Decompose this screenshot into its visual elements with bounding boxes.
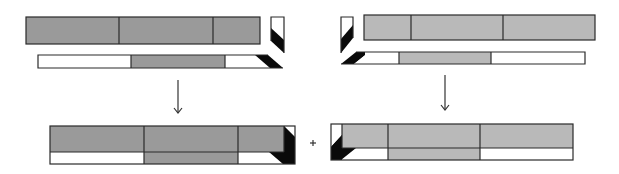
right-bottom-bar [341, 52, 585, 64]
right-down-arrow [441, 75, 449, 110]
fragment-join-diagram: + [0, 0, 619, 174]
left-vertical-end-tab [271, 17, 284, 53]
left-top-bar [26, 17, 260, 44]
left-combined-structure [50, 126, 295, 164]
left-fragment [26, 17, 284, 68]
plus-sign: + [310, 140, 316, 146]
left-down-arrow [174, 80, 182, 113]
right-combined-structure [331, 124, 573, 160]
right-vertical-end-tab [341, 17, 353, 53]
left-bottom-bar [38, 55, 283, 68]
right-top-bar [364, 15, 595, 40]
right-fragment [341, 15, 595, 64]
